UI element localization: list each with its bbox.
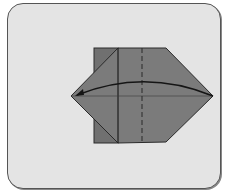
origami-diagram bbox=[0, 0, 228, 193]
